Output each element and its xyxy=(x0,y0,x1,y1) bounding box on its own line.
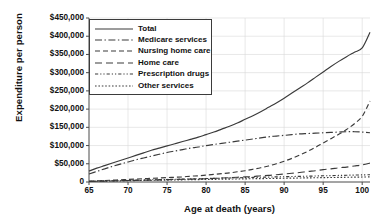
legend-item[interactable]: Prescription drugs xyxy=(94,69,207,80)
series-line xyxy=(89,101,370,181)
legend-line-swatch xyxy=(94,46,134,56)
legend-item[interactable]: Home care xyxy=(94,57,207,68)
legend-item[interactable]: Other services xyxy=(94,80,207,91)
legend-label: Total xyxy=(134,24,157,34)
legend-line-swatch xyxy=(94,24,134,34)
legend-line-swatch xyxy=(94,69,134,79)
legend-line-swatch xyxy=(94,81,134,91)
legend-line-swatch xyxy=(94,58,134,68)
legend-line-swatch xyxy=(94,35,134,45)
chart-figure: Expenditure per person Age at death (yea… xyxy=(0,0,380,223)
legend-label: Home care xyxy=(134,58,179,68)
legend-label: Prescription drugs xyxy=(134,69,209,79)
legend-label: Nursing home care xyxy=(134,46,210,56)
legend-label: Other services xyxy=(134,81,194,91)
series-line xyxy=(89,132,370,174)
legend-label: Medicare services xyxy=(134,35,207,45)
legend-item[interactable]: Nursing home care xyxy=(94,46,207,57)
legend-item[interactable]: Medicare services xyxy=(94,34,207,45)
legend-item[interactable]: Total xyxy=(94,23,207,34)
chart-legend: TotalMedicare servicesNursing home careH… xyxy=(89,19,212,95)
